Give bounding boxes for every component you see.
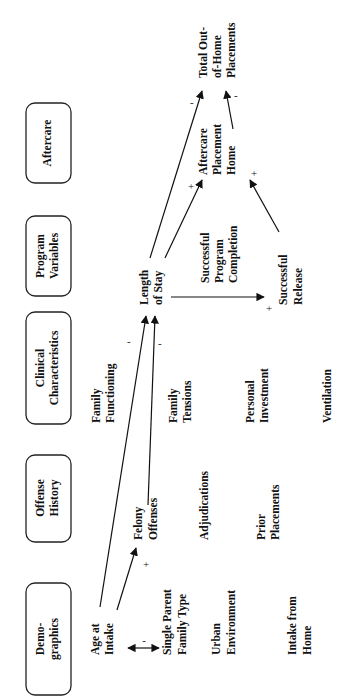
var-single-parent-family-type: Single Parent Family Type [161, 589, 189, 655]
category-box-offense-history: Offense History [26, 455, 71, 542]
svg-text:Personal: Personal [244, 380, 256, 423]
svg-text:Aftercare: Aftercare [197, 128, 209, 175]
sign-los-aftercare: + [188, 180, 194, 192]
svg-text:Program: Program [34, 234, 47, 278]
svg-text:Program: Program [213, 239, 226, 283]
svg-text:Placements: Placements [225, 22, 237, 78]
arrow-felony-los [148, 316, 155, 505]
svg-text:Clinical: Clinical [34, 349, 46, 387]
arrow-release-aftercare [250, 180, 279, 232]
arrow-aftercare-total [226, 91, 233, 129]
var-family-tensions: Family Tensions [167, 380, 193, 423]
var-successful-release: Successful Release [277, 255, 304, 305]
sign-age-singleparent: - [142, 634, 146, 646]
svg-text:Adjudications: Adjudications [198, 470, 211, 540]
svg-text:Intake from: Intake from [286, 596, 298, 655]
svg-text:History: History [48, 479, 61, 516]
var-total-out-of-home-placements: Total Out- of-Home Placements [197, 22, 237, 78]
svg-text:Single Parent: Single Parent [161, 589, 174, 655]
category-box-clinical-characteristics: Clinical Characteristics [26, 312, 71, 424]
sign-age-felony: + [143, 558, 149, 570]
svg-text:Environment: Environment [225, 590, 237, 655]
var-adjudications: Adjudications [198, 470, 211, 540]
svg-text:Offenses: Offenses [147, 497, 159, 540]
svg-text:Family Type: Family Type [176, 594, 189, 655]
var-successful-program-completion: Successful Program Completion [199, 225, 240, 283]
svg-text:of-Home: of-Home [211, 35, 223, 78]
sign-age-los: - [127, 335, 131, 347]
sign-los-release: + [266, 302, 272, 314]
svg-text:of Stay: of Stay [152, 271, 165, 305]
var-age-at-intake: Age at Intake [89, 623, 115, 655]
svg-text:Successful: Successful [277, 255, 289, 305]
svg-text:Completion: Completion [227, 225, 240, 283]
var-urban-environment: Urban Environment [210, 590, 237, 655]
svg-text:Demo-: Demo- [34, 623, 46, 656]
var-family-functioning: Family Functioning [90, 363, 117, 423]
svg-text:Prior: Prior [255, 514, 267, 540]
var-personal-investment: Personal Investment [244, 368, 270, 423]
svg-text:Offense: Offense [34, 479, 46, 517]
svg-text:graphics: graphics [48, 617, 61, 660]
svg-text:Family: Family [90, 388, 103, 423]
svg-text:Intake: Intake [103, 623, 115, 655]
sign-release-aftercare: + [251, 167, 257, 179]
svg-text:Age at: Age at [89, 623, 102, 655]
sign-felony-los: - [158, 337, 162, 349]
svg-text:Ventilation: Ventilation [321, 369, 333, 423]
var-ventilation: Ventilation [321, 369, 333, 423]
path-diagram: Demo- graphics Offense History Clinical … [0, 0, 349, 697]
svg-text:Placement: Placement [211, 124, 223, 175]
svg-text:Home: Home [225, 146, 237, 175]
svg-text:Felony: Felony [132, 507, 145, 540]
var-felony-offenses: Felony Offenses [132, 497, 159, 540]
svg-text:Functioning: Functioning [104, 363, 117, 423]
sign-aftercare-total: - [234, 89, 238, 101]
svg-text:Length: Length [138, 269, 151, 305]
var-intake-from-home: Intake from Home [286, 596, 313, 655]
var-length-of-stay: Length of Stay [138, 269, 165, 305]
category-box-demographics: Demo- graphics [26, 583, 71, 695]
svg-text:Urban: Urban [210, 622, 222, 655]
arrow-age-felony [117, 548, 136, 610]
svg-text:Investment: Investment [258, 368, 270, 423]
svg-text:Placements: Placements [269, 484, 281, 540]
svg-text:Family: Family [167, 388, 180, 423]
svg-text:Successful: Successful [199, 233, 211, 283]
svg-text:Characteristics: Characteristics [48, 330, 60, 405]
var-prior-placements: Prior Placements [255, 484, 281, 540]
svg-text:Total Out-: Total Out- [197, 27, 209, 78]
svg-text:Home: Home [301, 626, 313, 655]
svg-text:Release: Release [292, 268, 304, 305]
var-aftercare-placement-home: Aftercare Placement Home [197, 124, 237, 175]
svg-text:Aftercare: Aftercare [41, 120, 53, 167]
arrow-los-total [150, 91, 202, 258]
category-box-aftercare: Aftercare [26, 103, 71, 183]
sign-los-total: - [190, 96, 194, 108]
category-box-program-variables: Program Variables [26, 216, 71, 296]
svg-text:Variables: Variables [48, 232, 60, 279]
arrow-age-los [100, 316, 146, 607]
svg-text:Tensions: Tensions [181, 380, 193, 423]
